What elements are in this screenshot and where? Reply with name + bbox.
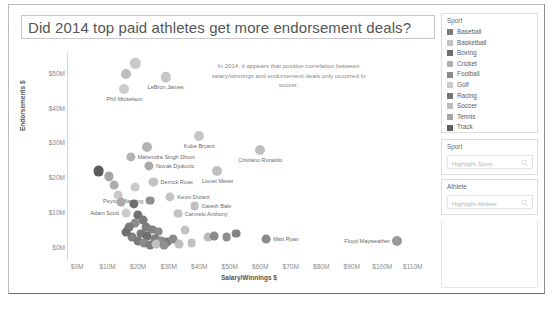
dashboard-frame: Did 2014 top paid athletes get more endo… bbox=[8, 4, 545, 294]
sidebar: Sport BaseballBasketballBoxingCricketFoo… bbox=[441, 13, 538, 288]
scatter-chart-panel[interactable]: Endorsements $ $0M$10M$20M$30M$40M$50M $… bbox=[21, 43, 435, 285]
data-point[interactable] bbox=[175, 240, 184, 249]
y-axis-ticks: $0M$10M$20M$30M$40M$50M bbox=[21, 43, 65, 260]
data-point-label: Gareth Bale bbox=[202, 203, 232, 209]
legend-item-football[interactable]: Football bbox=[447, 69, 487, 80]
data-point[interactable] bbox=[109, 181, 118, 190]
data-point-label: Adam Scott bbox=[90, 210, 119, 216]
data-point-label: Derrick Rose bbox=[161, 179, 193, 185]
data-point[interactable] bbox=[130, 58, 140, 68]
x-tick-label: $10M bbox=[100, 263, 116, 270]
data-point[interactable] bbox=[187, 239, 196, 248]
y-tick-label: $40M bbox=[25, 105, 65, 112]
data-point-phil-mickelson[interactable] bbox=[119, 84, 129, 94]
data-point-derrick-rose[interactable] bbox=[149, 177, 158, 186]
data-point-gareth-bale[interactable] bbox=[190, 201, 199, 210]
legend-item-label: Racing bbox=[457, 93, 477, 99]
data-point[interactable] bbox=[181, 226, 190, 235]
data-point[interactable] bbox=[160, 241, 169, 250]
data-point-adam-scott[interactable] bbox=[122, 208, 131, 217]
x-tick-label: $60M bbox=[252, 263, 268, 270]
data-point[interactable] bbox=[93, 166, 104, 177]
legend-swatch-icon bbox=[447, 93, 453, 99]
legend-item-list: BaseballBasketballBoxingCricketFootballG… bbox=[447, 27, 487, 133]
athlete-filter-input[interactable]: Highlight Athlete bbox=[447, 195, 533, 209]
legend-swatch-icon bbox=[447, 125, 453, 131]
data-point-mahendra-singh-dhoni[interactable] bbox=[126, 153, 135, 162]
data-point-label: Novak Djokovic bbox=[156, 163, 195, 169]
legend-swatch-icon bbox=[447, 29, 453, 35]
chart-annotation: In 2014, it appears that positive correl… bbox=[201, 61, 376, 90]
legend-swatch-icon bbox=[447, 72, 453, 78]
data-point-label: Mahendra Singh Dhoni bbox=[138, 154, 195, 160]
legend-item-label: Track bbox=[457, 124, 473, 130]
legend-item-soccer[interactable]: Soccer bbox=[447, 101, 487, 112]
search-icon[interactable] bbox=[521, 159, 529, 167]
data-point-label: Kobe Bryant bbox=[184, 143, 215, 149]
data-point-label: Lionel Messi bbox=[202, 178, 233, 184]
data-point[interactable] bbox=[117, 198, 126, 207]
data-point[interactable] bbox=[121, 69, 131, 79]
data-point-label: Matt Ryan bbox=[273, 236, 299, 242]
data-point[interactable] bbox=[122, 228, 131, 237]
x-tick-label: $110M bbox=[403, 263, 422, 270]
data-point-label: Kevin Durant bbox=[177, 194, 209, 200]
sport-filter-card: Sport Highlight Sport bbox=[441, 139, 538, 175]
sport-legend-card: Sport BaseballBasketballBoxingCricketFoo… bbox=[441, 13, 538, 133]
x-tick-label: $50M bbox=[222, 263, 238, 270]
data-point-floyd-mayweather[interactable] bbox=[392, 236, 402, 246]
legend-item-golf[interactable]: Golf bbox=[447, 80, 487, 91]
legend-swatch-icon bbox=[447, 61, 453, 67]
data-point[interactable] bbox=[231, 229, 240, 238]
search-icon[interactable] bbox=[521, 199, 529, 207]
data-point-label: LeBron James bbox=[148, 84, 184, 90]
data-point-cristiano-ronaldo[interactable] bbox=[255, 145, 265, 155]
athlete-filter-placeholder: Highlight Athlete bbox=[452, 200, 497, 207]
data-point[interactable] bbox=[129, 200, 138, 209]
data-point-matt-ryan[interactable] bbox=[262, 235, 271, 244]
legend-item-baseball[interactable]: Baseball bbox=[447, 27, 487, 38]
x-tick-label: $100M bbox=[372, 263, 392, 270]
y-tick-label: $10M bbox=[25, 209, 65, 216]
data-point-carmelo-anthony[interactable] bbox=[173, 209, 182, 218]
legend-swatch-icon bbox=[447, 82, 453, 88]
legend-item-basketball[interactable]: Basketball bbox=[447, 38, 487, 49]
data-point[interactable] bbox=[105, 172, 114, 181]
legend-item-label: Tennis bbox=[457, 114, 475, 120]
legend-swatch-icon bbox=[447, 114, 453, 120]
x-tick-label: $0M bbox=[71, 263, 84, 270]
legend-item-racing[interactable]: Racing bbox=[447, 91, 487, 102]
data-point-label: Carmelo Anthony bbox=[185, 211, 228, 217]
legend-item-cricket[interactable]: Cricket bbox=[447, 59, 487, 70]
x-tick-label: $30M bbox=[161, 263, 177, 270]
data-point[interactable] bbox=[131, 182, 140, 191]
legend-title: Sport bbox=[447, 17, 462, 24]
data-point-lionel-messi[interactable] bbox=[212, 166, 222, 176]
data-point-kobe-bryant[interactable] bbox=[194, 131, 204, 141]
data-point[interactable] bbox=[222, 233, 231, 242]
legend-swatch-icon bbox=[447, 50, 453, 56]
dashboard-title-box: Did 2014 top paid athletes get more endo… bbox=[21, 15, 435, 39]
athlete-filter-card: Athlete Highlight Athlete bbox=[441, 179, 538, 215]
data-point-label: Floyd Mayweather bbox=[344, 238, 390, 244]
data-point[interactable] bbox=[210, 231, 219, 240]
data-point-peyton-manning[interactable] bbox=[146, 196, 155, 205]
y-tick-label: $0M bbox=[25, 244, 65, 251]
sport-filter-input[interactable]: Highlight Sport bbox=[447, 155, 533, 169]
legend-item-label: Baseball bbox=[457, 29, 482, 35]
data-point[interactable] bbox=[142, 142, 152, 152]
legend-swatch-icon bbox=[447, 103, 453, 109]
data-point-novak-djokovic[interactable] bbox=[144, 161, 153, 170]
data-point-kevin-durant[interactable] bbox=[166, 193, 175, 202]
legend-item-track[interactable]: Track bbox=[447, 122, 487, 133]
x-tick-label: $70M bbox=[283, 263, 299, 270]
data-point-lebron-james[interactable] bbox=[160, 72, 170, 82]
legend-item-tennis[interactable]: Tennis bbox=[447, 112, 487, 123]
legend-item-label: Cricket bbox=[457, 61, 477, 67]
legend-item-label: Football bbox=[457, 71, 480, 77]
legend-item-label: Boxing bbox=[457, 50, 477, 56]
legend-item-label: Basketball bbox=[457, 40, 487, 46]
data-point-label: Phil Mickelson bbox=[107, 96, 143, 102]
x-axis-title: Salary/Winnings $ bbox=[68, 274, 430, 281]
legend-item-boxing[interactable]: Boxing bbox=[447, 48, 487, 59]
